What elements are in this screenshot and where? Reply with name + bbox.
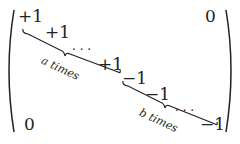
entry-plus-3: +1 xyxy=(98,56,123,73)
entry-minus-2: −1 xyxy=(145,86,170,103)
entry-minus-1: −1 xyxy=(122,70,147,87)
zero-bottom-left: 0 xyxy=(24,116,35,133)
entry-plus-2: +1 xyxy=(45,24,70,41)
entry-plus-1: +1 xyxy=(18,8,43,25)
dots-2: . . . xyxy=(175,101,194,113)
dots-1: . . . xyxy=(72,40,91,52)
entry-minus-3: −1 xyxy=(200,116,225,133)
zero-top-right: 0 xyxy=(205,8,216,25)
